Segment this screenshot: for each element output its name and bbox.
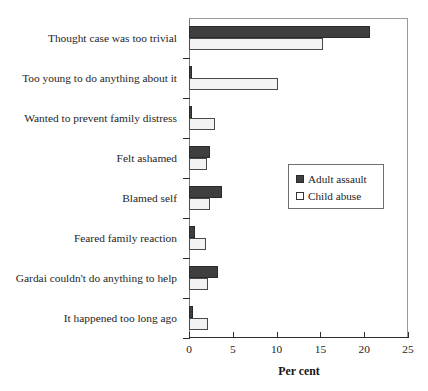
- x-axis-tick-label: 15: [305, 343, 335, 356]
- legend-label-adult-assault: Adult assault: [308, 173, 367, 185]
- category-label: Too young to do anything about it: [0, 72, 177, 84]
- legend-label-child-abuse: Child abuse: [308, 190, 361, 202]
- bar-adult-assault: [189, 266, 218, 278]
- bar-adult-assault: [189, 186, 222, 198]
- bar-adult-assault: [189, 106, 192, 118]
- x-axis-tick: [408, 332, 409, 338]
- legend-swatch-filled-dark-square-icon: [296, 175, 304, 183]
- bar-adult-assault: [189, 306, 193, 318]
- legend-item-adult-assault: Adult assault: [296, 170, 383, 187]
- bar-adult-assault: [189, 226, 195, 238]
- x-axis-tick: [320, 332, 321, 338]
- x-axis-tick: [233, 332, 234, 338]
- bar-child-abuse: [189, 78, 278, 90]
- x-axis-title: Per cent: [189, 364, 409, 379]
- bar-child-abuse: [189, 318, 208, 330]
- legend-item-child-abuse: Child abuse: [296, 187, 383, 204]
- category-label: It happened too long ago: [0, 312, 177, 324]
- y-axis-tick: [183, 58, 190, 59]
- x-axis-tick-label: 20: [349, 343, 379, 356]
- bar-adult-assault: [189, 26, 370, 38]
- category-label: Felt ashamed: [0, 152, 177, 164]
- category-axis-labels: Thought case was too trivialToo young to…: [0, 18, 183, 338]
- x-axis-tick-label: 0: [174, 343, 204, 356]
- category-label: Gardai couldn't do anything to help: [0, 272, 177, 284]
- y-axis-tick: [183, 258, 190, 259]
- y-axis-tick: [183, 138, 190, 139]
- bar-child-abuse: [189, 278, 208, 290]
- x-axis-tick: [277, 332, 278, 338]
- y-axis-tick: [183, 298, 190, 299]
- bar-adult-assault: [189, 146, 210, 158]
- y-axis-tick: [183, 98, 190, 99]
- y-axis-tick: [183, 218, 190, 219]
- category-label: Blamed self: [0, 192, 177, 204]
- x-axis-tick-label: 5: [218, 343, 248, 356]
- bar-chart: Thought case was too trivialToo young to…: [0, 0, 428, 391]
- category-label: Wanted to prevent family distress: [0, 112, 177, 124]
- category-label: Feared family reaction: [0, 232, 177, 244]
- y-axis-tick: [183, 338, 190, 339]
- category-label: Thought case was too trivial: [0, 32, 177, 44]
- bar-child-abuse: [189, 198, 210, 210]
- x-axis-line: [189, 337, 409, 338]
- y-axis-tick: [183, 178, 190, 179]
- x-axis-tick: [364, 332, 365, 338]
- x-axis-tick-label: 10: [262, 343, 292, 356]
- bar-child-abuse: [189, 118, 215, 130]
- legend-swatch-open-white-square-icon: [296, 192, 304, 200]
- chart-legend: Adult assault Child abuse: [288, 164, 384, 209]
- x-axis-tick-label: 25: [393, 343, 423, 356]
- bar-child-abuse: [189, 158, 207, 170]
- bar-child-abuse: [189, 38, 323, 50]
- bar-child-abuse: [189, 238, 206, 250]
- bar-adult-assault: [189, 66, 192, 78]
